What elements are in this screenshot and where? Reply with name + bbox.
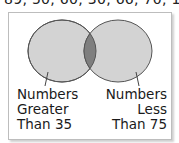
left-label-line: Than 35 bbox=[17, 117, 78, 132]
left-set-label: Numbers Greater Than 35 bbox=[17, 87, 78, 132]
right-set-label: Numbers Less Than 75 bbox=[106, 87, 167, 132]
right-label-line: Less bbox=[106, 102, 167, 117]
left-label-line: Greater bbox=[17, 102, 78, 117]
right-label-line: Than 75 bbox=[106, 117, 167, 132]
right-label-line: Numbers bbox=[106, 87, 167, 102]
left-label-line: Numbers bbox=[17, 87, 78, 102]
